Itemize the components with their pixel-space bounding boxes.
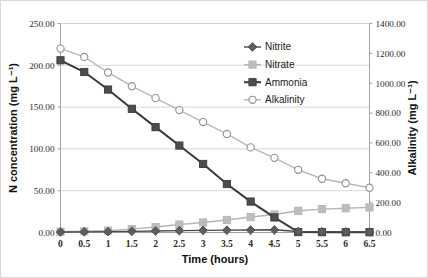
data-point-alkalinity [57, 45, 64, 52]
data-point-alkalinity [295, 166, 302, 173]
data-point-ammonia [152, 124, 159, 131]
data-point-nitrite [246, 226, 255, 235]
x-axis-tick-label: 6.5 [364, 238, 376, 249]
y-axis-tick-label: 100.00 [29, 144, 55, 154]
y-axis-tick-label: 250.00 [29, 19, 55, 29]
chart-legend: NitriteNitrateAmmoniaAlkalinity [244, 41, 308, 105]
data-point-alkalinity [223, 130, 230, 137]
legend-entry-alkalinity[interactable]: Alkalinity [244, 94, 304, 105]
x-axis-tick-labels: 00.511.522.533.544.555.566.5 [58, 238, 376, 249]
legend-label-alkalinity: Alkalinity [265, 94, 304, 105]
x-axis-tick-label: 2.5 [173, 238, 185, 249]
legend-label-nitrite: Nitrite [265, 41, 292, 52]
legend-marker-ammonia [249, 79, 256, 86]
data-point-nitrate [223, 216, 230, 223]
data-point-alkalinity [271, 154, 278, 161]
data-point-nitrate [366, 204, 373, 211]
x-axis-tick-label: 1 [106, 238, 111, 249]
y2-axis-tick-label: 1400.00 [376, 19, 406, 29]
x-axis-tick-label: 0 [58, 238, 63, 249]
legend-entry-nitrate[interactable]: Nitrate [244, 59, 295, 70]
data-point-nitrite [199, 226, 208, 235]
y-axis-tick-label: 150.00 [29, 102, 55, 112]
x-axis-tick-label: 3 [201, 238, 206, 249]
data-point-alkalinity [81, 53, 88, 60]
y2-axis-tick-labels: 0.00200.00400.00600.00800.001000.001200.… [376, 19, 406, 238]
data-point-ammonia [57, 57, 64, 64]
data-point-nitrate [318, 205, 325, 212]
legend-marker-nitrite [248, 43, 257, 52]
x-axis-tick-label: 5 [296, 238, 301, 249]
x-axis-tick-label: 2 [153, 238, 158, 249]
data-point-nitrate [200, 219, 207, 226]
y-axis-tick-label: 0.00 [38, 228, 54, 238]
x-axis-tick-label: 1.5 [126, 238, 138, 249]
y2-axis-title: Alkalinity (mg L⁻¹) [406, 80, 418, 176]
chart-container: 0.0050.00100.00150.00200.00250.00 0.0020… [0, 0, 428, 278]
data-point-ammonia [271, 214, 278, 221]
x-axis-tick-label: 0.5 [78, 238, 90, 249]
data-point-nitrite [223, 226, 232, 235]
legend-label-ammonia: Ammonia [265, 77, 308, 88]
y-axis-tick-label: 200.00 [29, 61, 55, 71]
data-point-alkalinity [342, 180, 349, 187]
y2-axis-tick-label: 400.00 [376, 168, 402, 178]
x-axis-tick-label: 5.5 [316, 238, 328, 249]
legend-label-nitrate: Nitrate [265, 59, 295, 70]
x-axis-tick-label: 4.5 [268, 238, 280, 249]
data-point-ammonia [176, 142, 183, 149]
y2-axis-tick-label: 200.00 [376, 198, 402, 208]
y2-axis-tick-label: 1200.00 [376, 49, 406, 59]
data-point-alkalinity [247, 144, 254, 151]
data-point-alkalinity [152, 95, 159, 102]
data-point-ammonia [200, 160, 207, 167]
legend-entry-nitrite[interactable]: Nitrite [244, 41, 292, 52]
y2-axis-tick-label: 1000.00 [376, 79, 406, 89]
chart-plot: 0.0050.00100.00150.00200.00250.00 0.0020… [1, 1, 428, 278]
data-point-alkalinity [176, 106, 183, 113]
data-point-ammonia [223, 180, 230, 187]
data-point-ammonia [128, 105, 135, 112]
y2-axis-tick-label: 800.00 [376, 108, 402, 118]
axis-titles-group: Time (hours)N concentration (mg L⁻¹)Alka… [7, 63, 418, 265]
data-point-ammonia [81, 68, 88, 75]
y-axis-title: N concentration (mg L⁻¹) [7, 63, 19, 193]
data-point-nitrate [342, 205, 349, 212]
y2-axis-tick-label: 600.00 [376, 138, 402, 148]
data-point-alkalinity [200, 118, 207, 125]
x-axis-title: Time (hours) [182, 253, 249, 265]
legend-marker-alkalinity [249, 96, 256, 103]
data-point-ammonia [104, 86, 111, 93]
data-point-alkalinity [128, 83, 135, 90]
data-point-alkalinity [104, 69, 111, 76]
data-series-group [56, 45, 374, 236]
data-point-ammonia [247, 198, 254, 205]
legend-entry-ammonia[interactable]: Ammonia [244, 77, 308, 88]
x-axis-tick-label: 3.5 [221, 238, 233, 249]
axes-group [58, 24, 373, 236]
x-axis-tick-label: 4 [248, 238, 253, 249]
y2-axis-tick-label: 0.00 [376, 228, 392, 238]
data-point-nitrate [247, 213, 254, 220]
y-axis-tick-label: 50.00 [34, 186, 55, 196]
data-point-alkalinity [366, 184, 373, 191]
x-axis-tick-label: 6 [343, 238, 348, 249]
series-alkalinity [57, 45, 373, 191]
data-point-alkalinity [318, 175, 325, 182]
legend-marker-nitrate [249, 61, 256, 68]
data-point-nitrate [295, 207, 302, 214]
y-axis-tick-labels: 0.0050.00100.00150.00200.00250.00 [29, 19, 55, 238]
